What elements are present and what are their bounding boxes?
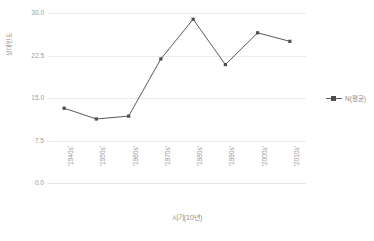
data-point-marker[interactable] bbox=[159, 57, 162, 60]
series-line bbox=[64, 19, 290, 119]
x-tick-label: '2010s' bbox=[293, 146, 302, 186]
data-point-marker[interactable] bbox=[63, 107, 66, 110]
x-tick-label: '1980s' bbox=[196, 146, 205, 186]
y-tick-label-text: 7.5 bbox=[18, 137, 44, 144]
data-point-marker[interactable] bbox=[127, 115, 130, 118]
x-tick-label: '1990s' bbox=[228, 146, 237, 186]
line-chart: 상대빈도 0.07.515.022.530.0 '1940s''1950s''1… bbox=[0, 0, 374, 241]
chart-legend[interactable]: N(평균) bbox=[326, 93, 366, 103]
data-point-marker[interactable] bbox=[288, 40, 291, 43]
data-point-marker[interactable] bbox=[95, 117, 98, 120]
y-tick-label: 15.0 bbox=[14, 94, 44, 102]
legend-marker-icon bbox=[326, 95, 342, 102]
y-tick-label-text: 15.0 bbox=[18, 94, 44, 101]
y-tick-label-text: 30.0 bbox=[18, 9, 44, 16]
y-tick-label: 7.5 bbox=[14, 137, 44, 145]
y-tick-label: 30.0 bbox=[14, 9, 44, 17]
x-axis-title: 시기(10년) bbox=[0, 212, 374, 222]
x-tick-label: '1970s' bbox=[164, 146, 173, 186]
x-tick-label: '1940s' bbox=[67, 146, 76, 186]
x-tick-label: '1960s' bbox=[132, 146, 141, 186]
data-point-marker[interactable] bbox=[224, 63, 227, 66]
y-axis-title: 상대빈도 bbox=[4, 14, 16, 74]
y-tick-label-text: 22.5 bbox=[18, 52, 44, 59]
y-tick-label-text: 0.0 bbox=[18, 179, 44, 186]
x-tick-label: '2000s' bbox=[261, 146, 270, 186]
data-point-marker[interactable] bbox=[256, 31, 259, 34]
y-tick-label: 0.0 bbox=[14, 179, 44, 187]
x-tick-label: '1950s' bbox=[99, 146, 108, 186]
data-point-marker[interactable] bbox=[192, 18, 195, 21]
y-tick-label: 22.5 bbox=[14, 52, 44, 60]
legend-entry-label: N(평균) bbox=[345, 93, 366, 103]
